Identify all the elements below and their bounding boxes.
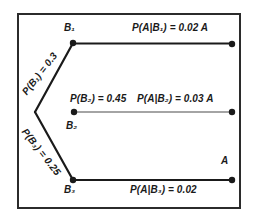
tree-lines [0, 0, 257, 223]
node-dot-b3 [70, 177, 76, 183]
node-dot-a1 [229, 41, 235, 47]
node-dot-b1 [70, 40, 76, 46]
node-dot-a2 [229, 109, 235, 115]
prior-probability-b2-label: P(B₂) = 0.45 [70, 93, 126, 104]
node-dot-b2 [71, 109, 77, 115]
node-dot-a3 [229, 177, 235, 183]
node-label-b3: B₃ [64, 184, 75, 195]
node-label-b2: B₂ [66, 120, 77, 131]
diagram-canvas: P(B₁) = 0.3 P(B₃) = 0.25 P(B₂) = 0.45 P(… [0, 0, 257, 223]
node-label-a-bottom: A [221, 155, 228, 166]
conditional-probability-b1-label: P(A|B₁) = 0.02 A [132, 22, 208, 33]
conditional-probability-b2-label: P(A|B₂) = 0.03 A [137, 93, 213, 104]
conditional-probability-b3-label: P(A|B₃) = 0.02 [130, 184, 197, 195]
node-label-b1: B₁ [64, 22, 75, 33]
